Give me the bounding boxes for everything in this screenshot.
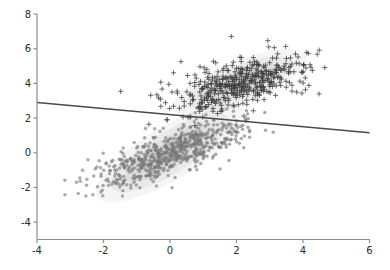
- data-point: [191, 130, 195, 134]
- data-point: [119, 150, 123, 154]
- data-point: [289, 83, 294, 88]
- data-point: [303, 87, 308, 92]
- data-point: [194, 111, 198, 115]
- data-point: [218, 167, 222, 171]
- data-point: [137, 155, 141, 159]
- data-point: [92, 174, 96, 178]
- data-point: [139, 174, 143, 178]
- data-point: [294, 90, 299, 95]
- data-point: [156, 163, 160, 167]
- data-point: [225, 107, 229, 111]
- data-point: [261, 97, 266, 102]
- data-point: [115, 181, 119, 185]
- data-point: [143, 136, 147, 140]
- data-point: [132, 158, 136, 162]
- data-point: [265, 38, 270, 43]
- data-point: [96, 185, 100, 189]
- data-point: [154, 144, 158, 148]
- data-point: [180, 143, 184, 147]
- data-point: [210, 135, 214, 139]
- data-point: [153, 127, 157, 131]
- data-point: [152, 156, 156, 160]
- data-point: [316, 91, 321, 96]
- data-point: [240, 137, 244, 141]
- plot-canvas: -4-202468-4-20246: [0, 0, 390, 270]
- data-point: [101, 151, 105, 155]
- data-point: [189, 134, 193, 138]
- data-point: [149, 164, 153, 168]
- data-point: [118, 166, 122, 170]
- data-point: [81, 169, 85, 173]
- data-point: [225, 126, 229, 130]
- data-point: [136, 145, 140, 149]
- data-point: [205, 132, 209, 136]
- data-point: [193, 158, 197, 162]
- data-point: [175, 159, 179, 163]
- data-point: [219, 133, 223, 137]
- data-point: [169, 143, 173, 147]
- data-point: [154, 149, 158, 153]
- scatter-plot-figure: -4-202468-4-20246: [0, 0, 390, 270]
- data-point: [171, 70, 176, 75]
- data-point: [85, 184, 89, 188]
- y-tick-label--2: -2: [21, 182, 31, 193]
- data-point: [185, 150, 189, 154]
- data-point: [148, 141, 152, 145]
- data-point: [166, 82, 171, 87]
- data-point: [85, 177, 89, 181]
- data-point: [149, 149, 153, 153]
- data-point: [263, 111, 267, 115]
- data-point: [180, 127, 184, 131]
- data-point: [105, 161, 109, 165]
- data-point: [206, 122, 210, 126]
- data-point: [122, 154, 126, 158]
- data-point: [248, 128, 252, 132]
- data-point: [221, 126, 225, 130]
- data-point: [188, 126, 192, 130]
- data-point: [242, 146, 246, 150]
- data-point: [264, 128, 268, 132]
- data-point: [227, 159, 231, 163]
- data-point: [149, 156, 153, 160]
- y-tick-label-2: 2: [25, 113, 31, 124]
- data-point: [211, 128, 215, 132]
- data-point: [234, 137, 238, 141]
- data-point: [97, 159, 101, 163]
- data-point: [118, 185, 122, 189]
- data-point: [163, 140, 167, 144]
- data-point: [148, 93, 153, 98]
- y-tick-label-0: 0: [25, 147, 31, 158]
- data-point: [299, 91, 304, 96]
- x-tick-label-4: 4: [300, 245, 306, 256]
- data-point: [150, 160, 154, 164]
- data-point: [214, 153, 218, 157]
- data-point: [118, 89, 123, 94]
- data-point: [290, 89, 295, 94]
- data-point: [193, 150, 197, 154]
- data-point: [251, 108, 256, 113]
- data-point: [145, 174, 149, 178]
- data-point: [307, 62, 312, 67]
- data-point: [183, 140, 187, 144]
- data-point: [322, 65, 327, 70]
- x-tick-label-2: 2: [233, 245, 239, 256]
- data-point: [110, 160, 114, 164]
- data-point: [216, 123, 220, 127]
- data-point: [138, 163, 142, 167]
- data-point: [205, 141, 209, 145]
- data-point: [248, 136, 252, 140]
- data-point: [123, 159, 127, 163]
- data-point: [102, 168, 106, 172]
- data-point: [153, 165, 157, 169]
- data-point: [144, 168, 148, 172]
- data-point: [239, 125, 243, 128]
- data-point: [158, 80, 163, 85]
- data-point: [197, 122, 201, 126]
- data-point: [163, 100, 168, 105]
- data-point: [106, 177, 110, 181]
- data-point: [121, 189, 125, 193]
- data-point: [223, 140, 227, 144]
- data-point: [151, 180, 155, 184]
- data-point: [224, 143, 228, 147]
- data-point: [194, 132, 198, 136]
